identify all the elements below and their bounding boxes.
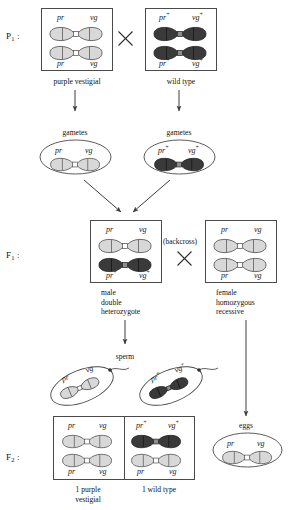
f2-box-divider bbox=[124, 417, 125, 479]
f2-right-allele-top-left: pr+ bbox=[136, 422, 147, 430]
egg-allele-right: vg bbox=[257, 440, 265, 448]
p1-right-allele-top-right: vg+ bbox=[192, 14, 203, 22]
genetics-cross-diagram: P1 : pr vg pr vg purple vestigial pr+ vg… bbox=[0, 0, 296, 510]
f2-left-caption-line2: vestigial bbox=[53, 495, 123, 505]
p1-left-allele-bottom-left: pr bbox=[57, 60, 64, 68]
arrow-gamete-right-to-f1 bbox=[126, 178, 172, 218]
f2-left-allele-bottom-left: pr bbox=[68, 468, 75, 476]
f2-left-allele-top-right: vg bbox=[99, 422, 107, 430]
f1-male-caption-line3: heterozygote bbox=[101, 307, 162, 317]
f2-right-allele-top-right: vg+ bbox=[168, 422, 179, 430]
gamete-right-allele-left: pr+ bbox=[158, 147, 169, 155]
f1-male-chromosome-top bbox=[97, 238, 155, 255]
f2-left-allele-bottom-right: vg bbox=[99, 468, 107, 476]
f2-left-caption: 1 purple vestigial bbox=[53, 485, 123, 504]
arrow-gamete-left-to-f1 bbox=[82, 178, 128, 218]
p1-parent-right-caption: wild type bbox=[135, 77, 227, 87]
egg-chromosome bbox=[220, 450, 276, 466]
arrow-p1-left-to-gametes bbox=[70, 90, 80, 115]
f2-left-chromosome-top bbox=[60, 434, 116, 450]
f1-cross-symbol bbox=[176, 250, 193, 267]
f1-male-caption: male double heterozygote bbox=[90, 288, 162, 317]
p1-right-chromosome-top bbox=[152, 26, 210, 43]
f1-female-caption-line2: homozygous bbox=[216, 298, 277, 308]
gamete-left-allele-right: vg bbox=[85, 147, 93, 155]
p1-left-allele-top-left: pr bbox=[57, 14, 64, 22]
p1-left-allele-top-right: vg bbox=[90, 14, 98, 22]
p1-cross-symbol bbox=[117, 30, 134, 47]
arrow-f1-male-to-sperm bbox=[120, 320, 130, 348]
f1-male-allele-bottom-right: vg+ bbox=[139, 272, 150, 280]
f1-male-allele-bottom-left: pr+ bbox=[106, 272, 117, 280]
backcross-label: (backcross) bbox=[163, 237, 197, 246]
f2-right-chromosome-top bbox=[129, 434, 185, 450]
gametes-left-label: gametes bbox=[40, 128, 110, 138]
f2-right-caption-line1: 1 wild type bbox=[123, 485, 195, 495]
p1-generation-label: P1 : bbox=[6, 31, 20, 41]
f2-right-caption: 1 wild type bbox=[123, 485, 195, 495]
f1-generation-label: F1 : bbox=[6, 250, 20, 260]
f1-female-caption: female homozygous recessive bbox=[205, 288, 277, 317]
f2-right-allele-bottom-left: pr bbox=[137, 468, 144, 476]
f1-male-allele-top-left: pr bbox=[106, 226, 113, 234]
f2-left-allele-top-left: pr bbox=[68, 422, 75, 430]
gamete-left-allele-left: pr bbox=[55, 147, 62, 155]
f2-generation-label: F2 : bbox=[6, 452, 20, 462]
f1-male-caption-line1: male bbox=[101, 288, 162, 298]
gamete-right-chromosome bbox=[152, 157, 208, 173]
p1-left-chromosome-top bbox=[48, 26, 106, 43]
f1-female-allele-top-left: pr bbox=[221, 226, 228, 234]
eggs-label: eggs bbox=[216, 421, 276, 431]
f1-female-chromosome-top bbox=[212, 238, 270, 255]
p1-left-allele-bottom-right: vg bbox=[90, 60, 98, 68]
p1-right-allele-bottom-right: vg+ bbox=[192, 60, 203, 68]
egg-allele-left: pr bbox=[227, 440, 234, 448]
f1-male-caption-line2: double bbox=[101, 298, 162, 308]
f1-female-allele-bottom-right: vg bbox=[254, 272, 262, 280]
arrow-p1-right-to-gametes bbox=[174, 90, 184, 115]
f1-female-caption-line3: recessive bbox=[216, 307, 277, 317]
f1-female-caption-line1: female bbox=[216, 288, 277, 298]
f1-female-allele-top-right: vg bbox=[254, 226, 262, 234]
p1-right-allele-top-left: pr+ bbox=[159, 14, 170, 22]
p1-right-allele-bottom-left: pr+ bbox=[159, 60, 170, 68]
gamete-left-chromosome bbox=[48, 157, 104, 173]
gamete-right-allele-right: vg+ bbox=[188, 147, 199, 155]
f2-right-allele-bottom-right: vg bbox=[169, 468, 177, 476]
f1-female-allele-bottom-left: pr bbox=[221, 272, 228, 280]
f2-left-caption-line1: 1 purple bbox=[53, 485, 123, 495]
gametes-right-label: gametes bbox=[144, 128, 214, 138]
p1-parent-left-caption: purple vestigial bbox=[31, 77, 123, 87]
f1-male-allele-top-right: vg bbox=[139, 226, 147, 234]
arrow-f1-female-to-eggs bbox=[241, 320, 251, 420]
